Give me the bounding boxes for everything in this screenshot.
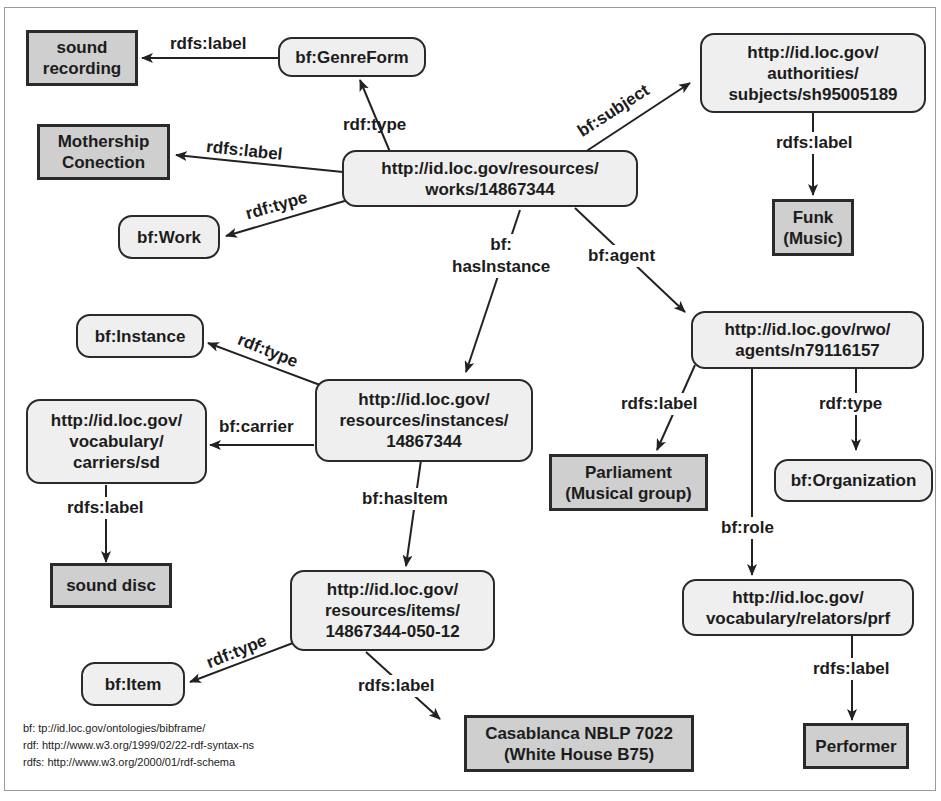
node-item: http://id.loc.gov/ resources/items/ 1486… — [290, 570, 495, 651]
edge-label-work-genre-type: rdf:type — [343, 114, 406, 136]
node-bf-instance: bf:Instance — [76, 314, 204, 358]
node-subject: http://id.loc.gov/ authorities/ subjects… — [700, 33, 926, 113]
node-sound-recording: sound recording — [26, 30, 138, 86]
node-performer: Performer — [803, 723, 909, 769]
edge-label-item-label: rdfs:label — [358, 675, 435, 697]
edge-label-subject-label: rdfs:label — [776, 132, 853, 154]
node-bf-item: bf:Item — [81, 662, 185, 706]
edge-label-agent-label: rdfs:label — [621, 393, 698, 415]
node-sound-disc: sound disc — [50, 563, 172, 608]
node-genreform: bf:GenreForm — [278, 37, 426, 77]
legend-rdfs: rdfs: http://www.w3.org/2000/01/rdf-sche… — [23, 754, 254, 771]
edge-label-relator-label: rdfs:label — [813, 658, 890, 680]
node-funk-music: Funk (Music) — [772, 199, 854, 256]
namespace-legend: bf: tp://id.loc.gov/ontologies/bibframe/… — [23, 720, 254, 771]
node-parliament: Parliament (Musical group) — [549, 454, 708, 511]
edge-label-instance-carrier: bf:carrier — [219, 416, 294, 438]
node-relator: http://id.loc.gov/ vocabulary/relators/p… — [682, 579, 914, 636]
legend-rdf: rdf: http://www.w3.org/1999/02/22-rdf-sy… — [23, 737, 254, 754]
edge-label-work-agent: bf:agent — [588, 245, 655, 267]
edge-label-instance-hasitem: bf:hasItem — [362, 488, 448, 510]
node-instance: http://id.loc.gov/ resources/instances/ … — [315, 379, 533, 462]
edge-label-genre-label: rdfs:label — [170, 33, 247, 55]
edge-instance-hasitem — [406, 460, 421, 566]
node-work: http://id.loc.gov/resources/ works/14867… — [342, 150, 638, 207]
node-casablanca: Casablanca NBLP 7022 (White House B75) — [464, 715, 694, 772]
edge-label-agent-role: bf:role — [721, 517, 774, 539]
node-mothership-conection: Mothership Conection — [37, 124, 170, 180]
edge-label-agent-type: rdf:type — [819, 393, 882, 415]
node-carrier: http://id.loc.gov/ vocabulary/ carriers/… — [26, 399, 207, 484]
node-bf-organization: bf:Organization — [774, 459, 933, 502]
legend-bf: bf: tp://id.loc.gov/ontologies/bibframe/ — [23, 720, 254, 737]
node-bf-work: bf:Work — [118, 215, 220, 259]
node-agent: http://id.loc.gov/rwo/ agents/n79116157 — [691, 311, 924, 369]
edge-label-work-hasinstance: bf: hasInstance — [452, 234, 550, 278]
edge-label-carrier-label: rdfs:label — [67, 497, 144, 519]
